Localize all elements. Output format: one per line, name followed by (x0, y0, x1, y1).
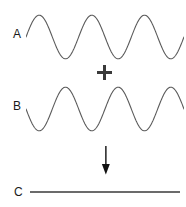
result-c-label: C (14, 186, 23, 198)
wave-b-label: B (13, 100, 22, 112)
wave-a-plot (26, 14, 184, 60)
wave-b-plot (26, 86, 184, 132)
plus-vertical-bar (103, 65, 106, 80)
wave-b-curve (26, 86, 184, 132)
interference-figure: A B C (0, 0, 186, 207)
down-arrow-icon (98, 146, 114, 175)
wave-a-curve (26, 14, 184, 60)
wave-a-label: A (13, 28, 22, 40)
result-flat-line (30, 191, 180, 193)
plus-operator-icon (96, 64, 113, 81)
